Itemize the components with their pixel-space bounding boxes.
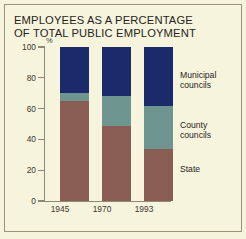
y-axis-tick xyxy=(38,77,44,78)
legend-item-county-councils: County councils xyxy=(180,120,244,141)
y-axis-tick-label: 80 xyxy=(10,73,36,83)
x-axis-tick-label: 1970 xyxy=(82,204,122,214)
x-axis-tick-label: 1945 xyxy=(40,204,80,214)
frame-border-left xyxy=(4,4,5,232)
y-axis-unit-label: % xyxy=(46,36,53,45)
bar-segment xyxy=(60,47,89,93)
y-axis-tick-label: 0 xyxy=(10,196,36,206)
bar-segment xyxy=(102,47,131,96)
frame-border-bottom xyxy=(4,231,242,232)
bar-segment xyxy=(144,47,173,106)
chart-figure: EMPLOYEES AS A PERCENTAGE OF TOTAL PUBLI… xyxy=(0,0,246,239)
y-axis-tick xyxy=(38,108,44,109)
x-axis-tick-label: 1993 xyxy=(124,204,164,214)
bar-segment xyxy=(60,93,89,101)
bar-1970 xyxy=(102,47,131,201)
y-axis-tick xyxy=(38,170,44,171)
legend-item-municipal-councils: Municipal councils xyxy=(180,70,244,91)
bar-segment xyxy=(144,149,173,201)
frame-border-top xyxy=(4,4,242,5)
plot-area xyxy=(45,47,165,201)
bar-segment xyxy=(144,106,173,149)
bar-segment xyxy=(102,96,131,125)
bar-1945 xyxy=(60,47,89,201)
y-axis-tick xyxy=(38,200,44,201)
frame-border-right xyxy=(241,4,242,232)
y-axis-tick-label: 40 xyxy=(10,134,36,144)
y-axis-tick xyxy=(38,139,44,140)
y-axis-tick-label: 20 xyxy=(10,165,36,175)
y-axis-tick-label: 60 xyxy=(10,104,36,114)
bar-segment xyxy=(102,126,131,201)
x-axis-line xyxy=(38,201,171,202)
y-axis-tick-label: 100 xyxy=(10,42,36,52)
legend-item-state: State xyxy=(180,164,244,174)
bar-1993 xyxy=(144,47,173,201)
bar-segment xyxy=(60,101,89,201)
y-axis-tick xyxy=(38,46,44,47)
